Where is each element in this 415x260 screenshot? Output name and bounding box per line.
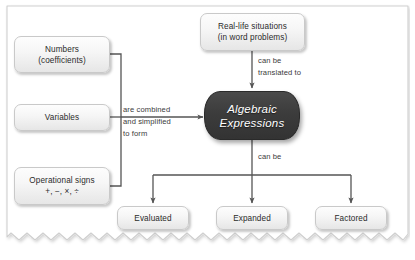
edge-label-can-be-line-1: can be xyxy=(258,151,281,163)
node-factored-line-1: Factored xyxy=(334,213,367,224)
edge-label-can-be: can be xyxy=(258,151,281,163)
node-real-life-situations-line-2: (in word problems) xyxy=(218,32,288,43)
edge-label-combined-simplified-line-1: are combined xyxy=(123,104,171,116)
edge-label-translated-to-line-1: can be xyxy=(258,55,301,67)
node-variables-line-1: Variables xyxy=(45,112,79,123)
node-variables[interactable]: Variables xyxy=(14,104,110,131)
node-real-life-situations[interactable]: Real-life situations (in word problems) xyxy=(200,13,305,51)
diagram-screenshot: Real-life situations (in word problems) … xyxy=(0,0,415,260)
edge-label-combined-simplified: are combined and simplified to form xyxy=(123,104,171,141)
edge-label-translated-to-line-2: translated to xyxy=(258,67,301,79)
node-algebraic-expressions[interactable]: Algebraic Expressions xyxy=(204,91,300,140)
edge-label-translated-to: can be translated to xyxy=(258,55,301,79)
node-operational-signs-line-1: Operational signs xyxy=(29,175,94,186)
node-evaluated[interactable]: Evaluated xyxy=(117,206,189,230)
edge-label-combined-simplified-line-3: to form xyxy=(123,128,171,140)
node-operational-signs-line-2: +, −, ×, ÷ xyxy=(45,186,79,197)
node-algebraic-expressions-line-2: Expressions xyxy=(220,116,285,130)
node-numbers-line-2: (coefficients) xyxy=(38,55,86,66)
node-numbers[interactable]: Numbers (coefficients) xyxy=(14,36,110,73)
node-factored[interactable]: Factored xyxy=(315,206,387,230)
edge-label-combined-simplified-line-2: and simplified xyxy=(123,116,171,128)
node-expanded[interactable]: Expanded xyxy=(216,206,288,230)
node-expanded-line-1: Expanded xyxy=(233,213,271,224)
node-operational-signs[interactable]: Operational signs +, −, ×, ÷ xyxy=(14,167,110,205)
node-algebraic-expressions-line-1: Algebraic xyxy=(227,102,277,116)
node-evaluated-line-1: Evaluated xyxy=(134,213,171,224)
node-numbers-line-1: Numbers xyxy=(45,44,79,55)
node-real-life-situations-line-1: Real-life situations xyxy=(218,21,287,32)
